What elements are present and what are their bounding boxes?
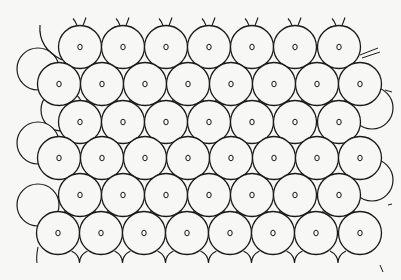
cell-circle: [253, 63, 296, 106]
edge-strand: [388, 204, 392, 205]
cell-circle: [209, 212, 252, 255]
cell-circle: [37, 212, 80, 255]
cell-circle: [124, 63, 167, 106]
bottom-cusp: [37, 247, 38, 263]
cell-circle: [145, 26, 188, 69]
cell-circle: [231, 26, 274, 69]
hexagonal-packing-diagram: [0, 0, 401, 280]
cell-circle: [81, 63, 124, 106]
top-tuft: [332, 18, 345, 26]
cell-circle: [339, 137, 382, 180]
cell-circle: [295, 212, 338, 255]
cell-circle: [210, 63, 253, 106]
cell-circle: [231, 174, 274, 217]
cell-circle: [102, 174, 145, 217]
cell-circle: [253, 137, 296, 180]
cell-circle: [339, 212, 382, 255]
top-tuft: [73, 18, 86, 26]
cell-circle: [339, 63, 382, 106]
bottom-cusp: [115, 251, 131, 263]
cell-circle: [188, 26, 231, 69]
cell-circle: [38, 63, 81, 106]
bottom-cusp: [330, 251, 346, 263]
bottom-cusp: [72, 251, 88, 263]
top-tuft: [288, 18, 301, 26]
cell-circle: [296, 137, 339, 180]
cell-circle: [123, 212, 166, 255]
cell-circle: [81, 137, 124, 180]
cell-circle: [59, 174, 102, 217]
cell-circle: [102, 26, 145, 69]
cell-circle: [210, 137, 253, 180]
bottom-cusp: [244, 251, 260, 263]
edge-strand: [380, 265, 383, 272]
cell-circle: [166, 212, 209, 255]
bottom-cusp: [287, 251, 303, 263]
cell-circle: [274, 26, 317, 69]
cell-circle: [167, 137, 210, 180]
cell-circle: [167, 63, 210, 106]
top-tuft: [116, 18, 129, 26]
cell-circle: [188, 174, 231, 217]
circle-array: [37, 26, 382, 255]
top-tuft: [245, 18, 258, 26]
cell-circle: [296, 63, 339, 106]
diagram-canvas: [0, 0, 401, 280]
cell-circle: [318, 26, 361, 69]
cell-circle: [59, 26, 102, 69]
cell-circle: [145, 174, 188, 217]
top-tuft: [202, 18, 215, 26]
bottom-cusp: [201, 251, 217, 263]
bottom-cusp: [158, 251, 174, 263]
cell-circle: [252, 212, 295, 255]
top-tuft: [159, 18, 172, 26]
cell-circle: [80, 212, 123, 255]
cell-circle: [38, 137, 81, 180]
cell-circle: [274, 174, 317, 217]
cell-circle: [124, 137, 167, 180]
cell-circle: [318, 174, 361, 217]
